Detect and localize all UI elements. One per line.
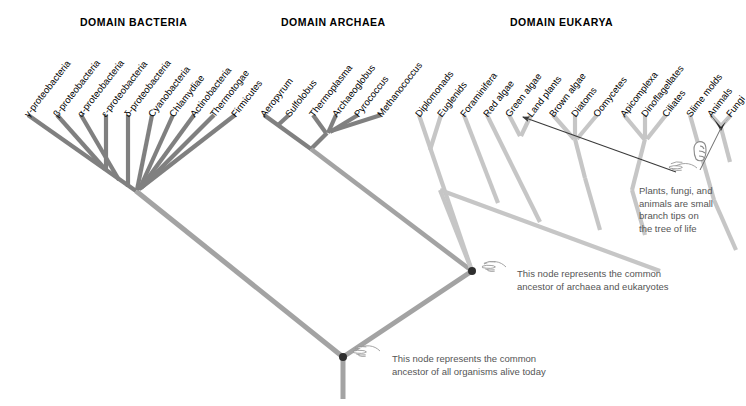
- branch-sulfolobus: [277, 115, 289, 126]
- trunk-bacteria: [136, 191, 343, 357]
- phylogenetic-tree-canvas: [0, 0, 746, 406]
- trunk-archaea-eukarya: [343, 271, 472, 357]
- archaeplastida-stem: [487, 115, 540, 222]
- branch-oomycetes: [577, 115, 597, 139]
- bacteria-clade: [28, 115, 235, 191]
- annotation-universal-ancestor: This node represents the common ancestor…: [392, 353, 627, 378]
- archaea-backbone: [264, 115, 311, 149]
- bacteria-backbone: [28, 115, 136, 191]
- pointing-hand-icon-vertical: [694, 142, 706, 161]
- pointing-hand-icon-plants: [669, 162, 682, 171]
- branch-apicomplexa: [624, 115, 644, 139]
- annotation-branch-tips: Plants, fungi, and animals are small bra…: [639, 185, 744, 235]
- domain-heading-bacteria: DOMAIN BACTERIA: [80, 16, 187, 28]
- branch-ciliates: [647, 115, 666, 139]
- pointing-hand-icon-archaea: [482, 261, 495, 271]
- stramenopiles-stem: [575, 139, 585, 178]
- archaea-crown-stem: [311, 133, 327, 149]
- domain-heading-archaea: DOMAIN ARCHAEA: [281, 16, 386, 28]
- branch-euglenids: [430, 115, 441, 150]
- archaea-eukarya-node-marker: [468, 267, 476, 275]
- arrow-to-plants-node: [523, 117, 676, 172]
- eukarya-crown-spine: [440, 190, 660, 271]
- branch-brown-algae: [553, 115, 574, 139]
- tree-of-life-figure: DOMAIN BACTERIA DOMAIN ARCHAEA DOMAIN EU…: [0, 0, 746, 406]
- root-node-marker: [339, 353, 347, 361]
- annotation-archaea-eukaryote-ancestor: This node represents the common ancestor…: [517, 268, 742, 293]
- domain-heading-eukarya: DOMAIN EUKARYA: [510, 16, 613, 28]
- stramenopiles-to-spine: [585, 178, 600, 230]
- alveolata-stem: [632, 139, 645, 190]
